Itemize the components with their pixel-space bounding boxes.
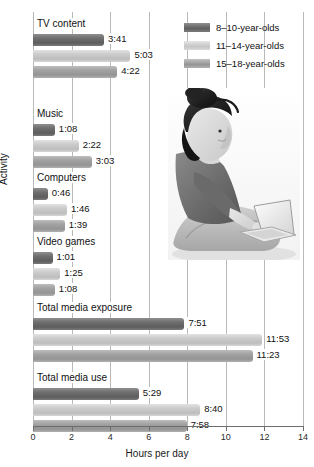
bar [33, 124, 55, 136]
media-use-bar-chart: TV content3:415:034:22Music1:082:223:03C… [0, 0, 314, 467]
bar [33, 388, 139, 400]
x-tick-label-10: 10 [221, 432, 231, 442]
x-tick-8 [187, 426, 188, 431]
legend: 8–10-year-olds11–14-year-olds15–18-year-… [184, 20, 285, 74]
legend-swatch-icon [184, 59, 210, 68]
bar [33, 34, 104, 46]
bar-value-label: 5:03 [133, 49, 154, 60]
bars-layer: TV content3:415:034:22Music1:082:223:03C… [33, 12, 303, 426]
legend-item: 11–14-year-olds [184, 38, 285, 53]
bar [33, 140, 79, 152]
category-label: Music [35, 108, 65, 119]
x-tick-label-0: 0 [30, 432, 35, 442]
bar-value-label: 1:39 [68, 219, 89, 230]
bar-value-label: 1:08 [58, 283, 79, 294]
x-tick-2 [72, 426, 73, 431]
x-tick-label-4: 4 [108, 432, 113, 442]
bar-value-label: 7:58 [190, 419, 211, 430]
bar [33, 156, 92, 168]
category-label: Computers [35, 172, 88, 183]
x-tick-6 [149, 426, 150, 431]
x-tick-4 [110, 426, 111, 431]
category-label: TV content [35, 18, 87, 29]
legend-swatch-icon [184, 23, 210, 32]
bar-value-label: 11:23 [256, 349, 281, 360]
bar-value-label: 1:25 [63, 267, 84, 278]
x-tick-12 [264, 426, 265, 431]
bar [33, 252, 53, 264]
bar-value-label: 1:46 [70, 203, 91, 214]
x-axis-line [33, 426, 303, 427]
bar-value-label: 8:40 [203, 403, 224, 414]
bar [33, 220, 65, 232]
bar [33, 284, 55, 296]
bar-value-label: 1:08 [58, 123, 79, 134]
x-tick-14 [303, 426, 304, 431]
x-tick-label-6: 6 [146, 432, 151, 442]
bar [33, 318, 184, 330]
x-axis-title: Hours per day [0, 448, 314, 459]
bar-value-label: 2:22 [82, 139, 103, 150]
category-label: Total media exposure [35, 302, 134, 313]
x-tick-label-14: 14 [298, 432, 308, 442]
bar [33, 268, 60, 280]
legend-item: 8–10-year-olds [184, 20, 285, 35]
x-tick-10 [226, 426, 227, 431]
legend-label: 11–14-year-olds [216, 40, 284, 51]
legend-label: 8–10-year-olds [216, 22, 279, 33]
gridline-14 [303, 12, 304, 426]
bar [33, 404, 200, 416]
legend-swatch-icon [184, 41, 210, 50]
x-tick-label-12: 12 [259, 432, 269, 442]
bar-value-label: 3:03 [95, 155, 116, 166]
x-tick-label-2: 2 [69, 432, 74, 442]
x-tick-label-8: 8 [185, 432, 190, 442]
category-label: Video games [35, 236, 97, 247]
legend-label: 15–18-year-olds [216, 58, 285, 69]
bar-value-label: 4:22 [120, 65, 141, 76]
bar [33, 334, 262, 346]
bar-value-label: 1:01 [56, 251, 77, 262]
legend-item: 15–18-year-olds [184, 56, 285, 71]
bar-value-label: 0:46 [51, 187, 72, 198]
bar [33, 50, 130, 62]
bar [33, 66, 117, 78]
x-tick-0 [33, 426, 34, 431]
bar-value-label: 7:51 [187, 317, 208, 328]
y-axis-title: Activity [0, 153, 9, 185]
bar-value-label: 3:41 [107, 33, 128, 44]
bar-value-label: 11:53 [265, 333, 290, 344]
bar [33, 188, 48, 200]
category-label: Total media use [35, 372, 109, 383]
bar [33, 204, 67, 216]
bar-value-label: 5:29 [142, 387, 163, 398]
bar [33, 350, 253, 362]
